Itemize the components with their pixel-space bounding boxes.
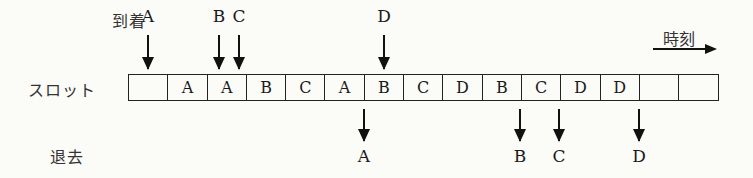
slot-cell: D xyxy=(561,75,600,100)
slot-cell: B xyxy=(365,75,404,100)
slot-cell: C xyxy=(404,75,443,100)
departure-arrow-icon xyxy=(558,109,560,141)
slot-cell: A xyxy=(208,75,247,100)
slot-cell xyxy=(679,75,718,100)
slot-cell: C xyxy=(522,75,561,100)
slot-cell: D xyxy=(443,75,482,100)
time-axis-label: 時刻 xyxy=(663,26,695,50)
departure-label-d: D xyxy=(632,146,646,166)
slot-cell xyxy=(640,75,679,100)
arrival-arrow-icon xyxy=(147,35,149,69)
slot-cell: A xyxy=(325,75,364,100)
departure-arrow-icon xyxy=(519,109,521,141)
departure-arrow-icon xyxy=(363,109,365,141)
arrival-arrow-icon xyxy=(218,35,220,69)
departure-label-b: B xyxy=(514,146,527,166)
slot-cell: A xyxy=(168,75,207,100)
slot-cell: B xyxy=(483,75,522,100)
slot-cell: B xyxy=(247,75,286,100)
departure-label-a: A xyxy=(358,146,370,166)
arrival-label-d: D xyxy=(377,6,391,26)
departure-row-label: 退去 xyxy=(50,144,84,168)
slot-cell: D xyxy=(601,75,640,100)
departure-arrow-icon xyxy=(638,109,640,141)
slot-bar: A A B C A B C D B C D D xyxy=(128,74,719,101)
arrival-label-c: C xyxy=(232,6,245,26)
departure-label-c: C xyxy=(552,146,565,166)
time-arrow-icon xyxy=(653,48,713,50)
arrival-label-a: A xyxy=(142,6,154,26)
arrival-label-b: B xyxy=(213,6,226,26)
arrival-arrow-icon xyxy=(238,35,240,69)
arrival-arrow-icon xyxy=(383,35,385,69)
slot-row-label: スロット xyxy=(28,77,96,101)
slot-cell: C xyxy=(286,75,325,100)
slot-cell xyxy=(129,75,168,100)
